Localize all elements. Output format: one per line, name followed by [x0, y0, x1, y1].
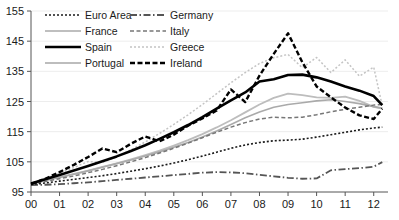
series-line-spain — [31, 75, 382, 184]
x-tick-label: 04 — [139, 198, 151, 210]
x-tick-label: 06 — [196, 198, 208, 210]
legend-label-portugal: Portugal — [85, 57, 124, 69]
chart-canvas: 95105115125135145155 0001020304050607080… — [0, 0, 399, 220]
y-axis: 95105115125135145155 — [6, 5, 31, 198]
x-axis: 00010203040506070809101112 — [25, 192, 388, 210]
y-tick-label: 115 — [6, 126, 24, 138]
x-tick-label: 02 — [82, 198, 94, 210]
y-tick-label: 95 — [12, 186, 24, 198]
y-tick-label: 125 — [6, 96, 24, 108]
x-tick-label: 00 — [25, 198, 37, 210]
legend-label-ireland: Ireland — [170, 57, 202, 69]
legend: Euro AreaGermanyFranceItalySpainGreecePo… — [45, 9, 214, 69]
y-tick-label: 105 — [6, 156, 24, 168]
x-tick-label: 08 — [253, 198, 265, 210]
legend-label-germany: Germany — [170, 9, 214, 21]
line-chart: 95105115125135145155 0001020304050607080… — [0, 0, 399, 220]
x-tick-label: 09 — [282, 198, 294, 210]
legend-label-spain: Spain — [85, 41, 112, 53]
x-tick-label: 12 — [368, 198, 380, 210]
y-tick-label: 135 — [6, 65, 24, 77]
x-tick-label: 01 — [53, 198, 65, 210]
series-line-greece — [31, 54, 382, 183]
x-tick-label: 03 — [111, 198, 123, 210]
legend-label-euro-area: Euro Area — [85, 9, 132, 21]
y-tick-label: 155 — [6, 5, 24, 17]
legend-label-france: France — [85, 25, 118, 37]
legend-label-italy: Italy — [170, 25, 190, 37]
x-tick-label: 05 — [168, 198, 180, 210]
x-tick-label: 10 — [310, 198, 322, 210]
y-tick-label: 145 — [6, 35, 24, 47]
x-tick-label: 07 — [225, 198, 237, 210]
series-line-portugal — [31, 94, 382, 184]
x-tick-label: 11 — [339, 198, 350, 210]
legend-label-greece: Greece — [170, 41, 205, 53]
